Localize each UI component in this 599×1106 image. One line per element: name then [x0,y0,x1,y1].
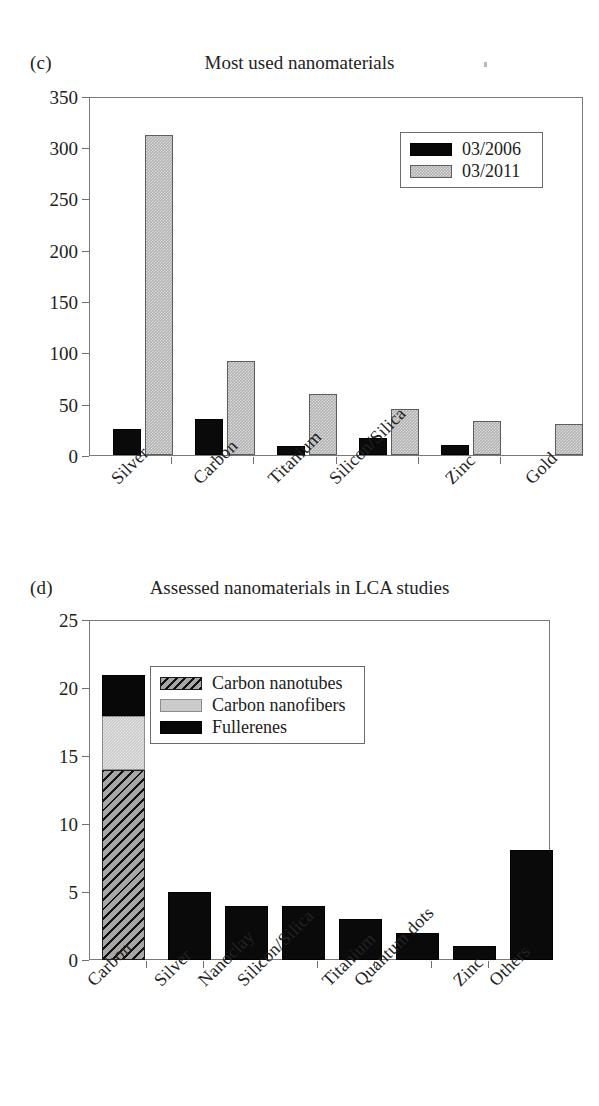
legend-item-fullerenes: Fullerenes [160,716,355,738]
x-tick-label-silver: Silver [150,945,196,991]
legend-item-carbon-nanofibers: Carbon nanofibers [160,694,355,716]
x-tick-label-others: Others [485,941,535,991]
legend-label: Carbon nanofibers [212,696,345,714]
legend-d: Carbon nanotubes Carbon nanofibers Fulle… [150,666,365,744]
x-tick-label-silicon-silica: Silicon/Silica [325,403,410,488]
legend-item-carbon-nanotubes: Carbon nanotubes [160,672,355,694]
panel-c: (c) Most used nanomaterials 350 300 250 … [0,0,599,545]
legend-label: Fullerenes [212,718,287,736]
legend-c: 03/2006 03/2011 [400,132,543,188]
x-tick-label-silver: Silver [107,443,153,489]
x-tick-label-carbon: Carbon [83,938,136,991]
legend-label: 03/2011 [462,162,520,180]
legend-item-03-2006: 03/2006 [410,138,533,160]
x-tick-label-carbon: Carbon [189,436,242,489]
x-tick-label-gold: Gold [521,448,562,489]
legend-label: 03/2006 [462,140,521,158]
x-axis-c: Silver Carbon Titanium Silicon/Silica Zi… [0,0,599,545]
x-tick-label-zinc: Zinc [449,952,488,991]
legend-swatch-icon [410,143,452,156]
panel-d: (d) Assessed nanomaterials in LCA studie… [0,545,599,1106]
legend-label: Carbon nanotubes [212,674,342,692]
legend-swatch-icon [160,721,202,734]
legend-swatch-icon [160,677,202,690]
legend-swatch-icon [410,165,452,178]
x-tick-label-zinc: Zinc [441,450,480,489]
x-tick-label-titanium: Titanium [264,427,326,489]
legend-swatch-icon [160,699,202,712]
legend-item-03-2011: 03/2011 [410,160,533,182]
x-axis-d: Carbon Silver Nanoclay Silicon/Silica Ti… [0,545,599,1106]
